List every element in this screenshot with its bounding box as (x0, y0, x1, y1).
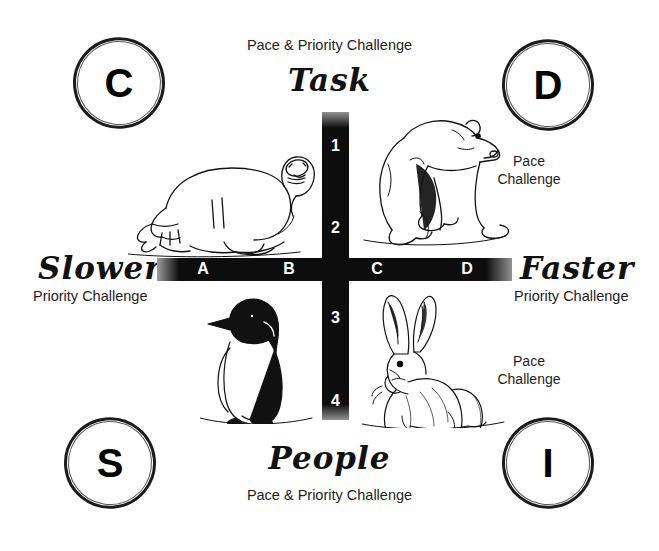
faster-sub-label: Priority Challenge (514, 288, 628, 304)
axis-tick-3: 3 (322, 309, 349, 327)
axis-tick-1: 1 (322, 137, 349, 155)
axis-tick-4: 4 (322, 392, 349, 410)
disc-quadrant-diagram: Pace & Priority Challenge Task People Pa… (0, 0, 659, 551)
badge-d-letter: D (534, 65, 563, 105)
badge-s[interactable]: S (64, 417, 156, 509)
badge-c-letter: C (105, 63, 134, 103)
badge-i[interactable]: I (502, 417, 594, 509)
badge-c[interactable]: C (73, 37, 165, 129)
badge-i-letter: I (542, 443, 553, 483)
axis-tick-d: D (450, 260, 484, 278)
slower-sub-label: Priority Challenge (33, 288, 147, 304)
badge-s-letter: S (97, 443, 124, 483)
hare-illustration (362, 292, 508, 428)
axis-tick-2: 2 (322, 219, 349, 237)
axis-tick-c: C (360, 260, 394, 278)
axis-tick-b: B (272, 260, 306, 278)
penguin-illustration (200, 292, 318, 424)
axis-tick-a: A (186, 260, 220, 278)
badge-d[interactable]: D (502, 39, 594, 131)
polar-bear-illustration (358, 104, 510, 256)
faster-axis-label: Faster (520, 250, 634, 286)
seal-illustration (128, 142, 318, 260)
